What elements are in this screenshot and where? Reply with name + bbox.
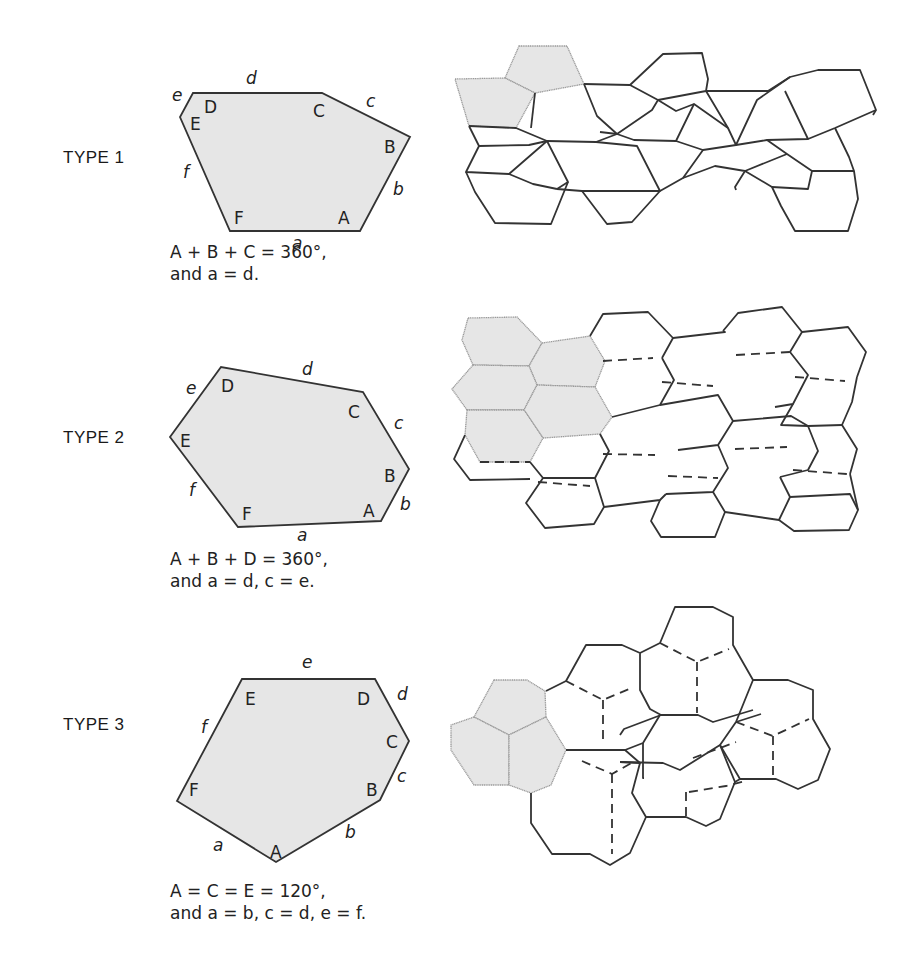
side-label-d: d (302, 359, 313, 379)
side-label-c: c (397, 766, 407, 786)
vertex-label-A: A (338, 208, 350, 228)
side-label-e: e (186, 378, 196, 398)
vertex-label-A: A (270, 842, 282, 862)
vertex-label-E: E (190, 114, 201, 134)
angle-formula-1: A + B + C = 360°,and a = d. (170, 241, 327, 285)
hexagon-tiling-figure: ABCDEFabcdefABCDEFabcdefABCDEFabcdef (0, 0, 914, 975)
type-label-2: TYPE 2 (63, 428, 125, 448)
formula-line: and a = d. (170, 263, 327, 285)
side-label-a: a (297, 525, 307, 545)
side-label-e: e (172, 85, 182, 105)
vertex-label-D: D (204, 97, 217, 117)
vertex-label-D: D (221, 376, 234, 396)
formula-line: A + B + C = 360°, (170, 241, 327, 263)
vertex-label-D: D (357, 689, 370, 709)
formula-line: and a = b, c = d, e = f. (170, 902, 366, 924)
side-label-f: f (183, 162, 192, 182)
side-label-a: a (213, 835, 223, 855)
tiling-type-3 (451, 607, 830, 865)
side-label-e: e (302, 652, 312, 672)
type-label-1: TYPE 1 (63, 148, 125, 168)
formula-line: A + B + D = 360°, (170, 548, 328, 570)
side-label-b: b (393, 179, 404, 199)
vertex-label-C: C (386, 732, 398, 752)
angle-formula-2: A + B + D = 360°,and a = d, c = e. (170, 548, 328, 592)
vertex-label-C: C (348, 402, 360, 422)
hexagon-type-2: ABCDEFabcdef (170, 359, 411, 545)
side-label-f: f (189, 480, 198, 500)
vertex-label-F: F (234, 208, 244, 228)
vertex-label-B: B (384, 466, 396, 486)
tiling-type-2 (452, 307, 866, 537)
vertex-label-B: B (384, 137, 396, 157)
side-label-d: d (397, 684, 408, 704)
side-label-b: b (400, 494, 411, 514)
vertex-label-A: A (363, 501, 375, 521)
vertex-label-C: C (313, 101, 325, 121)
side-label-c: c (394, 413, 404, 433)
hexagon-shape (177, 679, 409, 862)
hexagon-type-3: ABCDEFabcdef (177, 652, 409, 862)
side-label-f: f (201, 717, 210, 737)
side-label-c: c (366, 91, 376, 111)
side-label-b: b (345, 822, 356, 842)
vertex-label-E: E (180, 431, 191, 451)
angle-formula-3: A = C = E = 120°,and a = b, c = d, e = f… (170, 880, 366, 924)
tiling-type-1 (455, 46, 876, 231)
type-label-3: TYPE 3 (63, 715, 125, 735)
formula-line: and a = d, c = e. (170, 570, 328, 592)
vertex-label-E: E (245, 689, 256, 709)
tile-edge (779, 494, 858, 531)
vertex-label-F: F (189, 780, 199, 800)
side-label-d: d (246, 68, 257, 88)
vertex-label-F: F (242, 504, 252, 524)
hexagon-type-1: ABCDEFabcdef (172, 68, 410, 253)
vertex-label-B: B (366, 780, 378, 800)
formula-line: A = C = E = 120°, (170, 880, 366, 902)
